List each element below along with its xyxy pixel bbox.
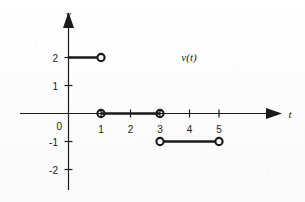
v-axis-label: v [66, 8, 71, 20]
t-axis-label: t [288, 108, 292, 120]
x-tick-label-2: 2 [128, 124, 134, 135]
x-tick-label-4: 4 [187, 124, 193, 135]
y-tick-label-minus-2: -2 [49, 165, 58, 176]
y-tick-label-2: 2 [52, 53, 58, 64]
signal-segments [69, 58, 220, 142]
x-tick-label-1: 1 [98, 124, 104, 135]
curve-label: v(t) [181, 51, 197, 64]
y-tick-label-0: 0 [56, 121, 62, 132]
x-tick-label-5: 5 [216, 124, 222, 135]
signal-plot: 1 2 3 4 5 2 1 0 -1 -2 v t v(t) [0, 0, 305, 202]
x-tick-label-group: 1 2 3 4 5 [98, 124, 222, 135]
open-circle-5-minus-1 [215, 138, 222, 145]
open-circle-1-2 [97, 54, 104, 61]
axes-group [20, 12, 282, 190]
open-circle-3-minus-1 [156, 138, 163, 145]
t-axis-arrow-icon [266, 108, 282, 119]
figure-canvas: 1 2 3 4 5 2 1 0 -1 -2 v t v(t) [0, 0, 305, 202]
y-tick-label-1: 1 [52, 81, 58, 92]
x-tick-label-3: 3 [157, 124, 163, 135]
y-tick-label-minus-1: -1 [49, 137, 58, 148]
